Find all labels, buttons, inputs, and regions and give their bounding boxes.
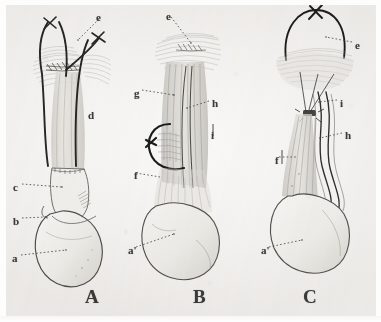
- label-b-e: e: [166, 11, 171, 22]
- figure-caption-a: A: [85, 286, 99, 308]
- label-c-f: f: [275, 155, 279, 166]
- label-c-e: e: [355, 40, 360, 51]
- label-a-a: a: [12, 253, 18, 264]
- figure-caption-b: B: [193, 286, 206, 308]
- drawing-canvas: [0, 0, 381, 322]
- label-a-d: d: [88, 110, 94, 121]
- label-c-h: h: [345, 130, 351, 141]
- illustration-plate: e d c b a e g h i f a' e i h f a' A B C: [0, 0, 381, 322]
- figure-b-drawing: [142, 33, 221, 279]
- label-b-h: h: [212, 98, 218, 109]
- label-a-b: b: [13, 216, 19, 227]
- figure-c-drawing: [270, 5, 354, 273]
- label-b-a-prime: a': [128, 245, 137, 256]
- label-a-c: c: [13, 182, 18, 193]
- figure-a-drawing: [33, 17, 111, 287]
- label-b-g: g: [134, 88, 140, 99]
- label-b-i: i: [211, 130, 214, 141]
- label-c-a-prime: a': [261, 245, 270, 256]
- label-c-i: i: [340, 98, 343, 109]
- label-a-e: e: [96, 12, 101, 23]
- label-b-f: f: [134, 170, 138, 181]
- figure-caption-c: C: [303, 286, 317, 308]
